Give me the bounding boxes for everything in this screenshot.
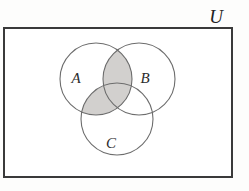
venn-diagram-figure: A B C U	[0, 0, 249, 191]
set-label-c: C	[106, 135, 117, 151]
set-label-b: B	[140, 70, 149, 86]
set-label-a: A	[70, 70, 81, 86]
venn-diagram-canvas: A B C U	[0, 0, 249, 191]
universe-label: U	[209, 6, 224, 27]
